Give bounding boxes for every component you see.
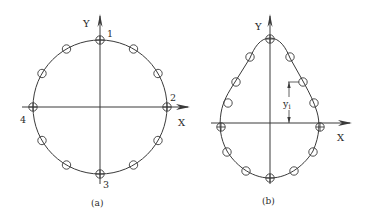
x-axis-b (211, 120, 352, 126)
point-label-2: 2 (170, 92, 176, 103)
y-axis-label-b: Y (254, 21, 262, 32)
caption-a: (a) (91, 198, 103, 208)
caption-b: (b) (262, 196, 275, 206)
x-axis-label-a: X (178, 117, 186, 128)
arrow-up-icon (287, 82, 290, 88)
y-axis-label-a: Y (82, 18, 90, 29)
yi-dimension: yi (282, 82, 299, 123)
figure-a: Y X 1 2 3 4 (a) (20, 14, 190, 208)
diagram-canvas: Y X 1 2 3 4 (a) (0, 0, 367, 218)
x-axis-label-b: X (337, 132, 345, 143)
teardrop-outline (220, 38, 319, 178)
point-label-3: 3 (103, 179, 109, 190)
point-label-1: 1 (107, 28, 113, 39)
arrow-down-icon (287, 117, 290, 123)
point-label-4: 4 (20, 114, 26, 125)
figure-b: yi Y X (b) (211, 14, 352, 206)
